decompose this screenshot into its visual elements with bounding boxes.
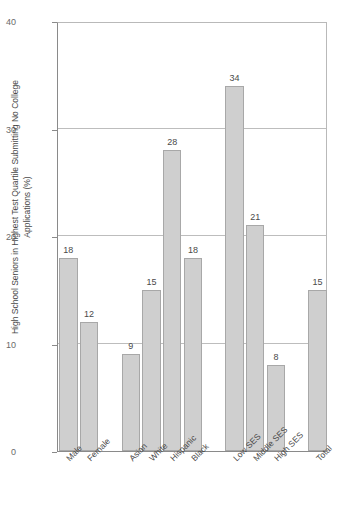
bar-chart: 010203040 High School Seniors in Highest… [0,0,348,508]
bar-rect [246,225,264,451]
bar-value-label: 15 [146,277,156,287]
bar-white[interactable]: 15 [142,21,160,451]
y-tick-label-40: 40 [0,18,16,27]
bar-female[interactable]: 12 [80,21,98,451]
bar-black[interactable]: 18 [184,21,202,451]
y-axis-title: High School Seniors in Highest Test Quar… [9,57,33,357]
plot-area: 181291528183421815 [57,22,327,452]
y-tick-label-0: 0 [0,448,16,457]
bar-hispanic[interactable]: 28 [163,21,181,451]
bar-rect [142,290,160,451]
bar-rect [225,86,243,452]
bar-male[interactable]: 18 [59,21,77,451]
y-tick-mark-0 [52,452,57,453]
bar-low-ses[interactable]: 34 [225,21,243,451]
bar-value-label: 18 [188,245,198,255]
bars-layer: 181291528183421815 [58,23,326,451]
bar-asian[interactable]: 9 [122,21,140,451]
bar-high-ses[interactable]: 8 [267,21,285,451]
bar-value-label: 12 [84,309,94,319]
bar-rect [184,258,202,452]
bar-value-label: 8 [274,352,279,362]
bar-value-label: 15 [313,277,323,287]
bar-rect [80,322,98,451]
bar-rect [163,150,181,451]
bar-rect [59,258,77,452]
bar-rect [122,354,140,451]
bar-rect [308,290,326,451]
bar-value-label: 28 [167,137,177,147]
bar-middle-ses[interactable]: 21 [246,21,264,451]
bar-value-label: 18 [63,245,73,255]
bar-value-label: 34 [230,73,240,83]
bar-value-label: 9 [128,341,133,351]
bar-value-label: 21 [250,212,260,222]
bar-total[interactable]: 15 [308,21,326,451]
